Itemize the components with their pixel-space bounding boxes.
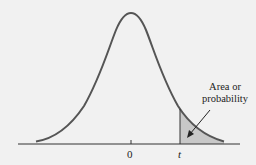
area-annotation: Area or probability [197, 81, 253, 105]
annotation-line1: Area or [197, 81, 253, 93]
tick-label-t: t [178, 148, 181, 160]
annotation-line2: probability [197, 93, 253, 105]
density-curve [36, 13, 224, 142]
tick-label-zero: 0 [127, 148, 133, 160]
t-distribution-figure: Area or probability 0 t [0, 0, 256, 165]
